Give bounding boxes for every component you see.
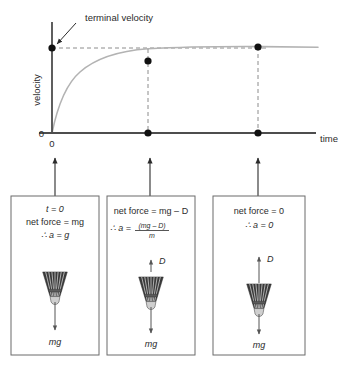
box3-line-acceleration: ∴ a = 0: [245, 220, 274, 230]
velocity-curve: [52, 47, 318, 133]
drag-label-intermediate: D: [159, 256, 166, 266]
marker-initial-terminal-level: [48, 44, 55, 51]
weight-label-intermediate: mg: [145, 339, 158, 349]
axis-marker-terminal: [254, 129, 261, 136]
box3-line-net-force: net force = 0: [234, 206, 284, 216]
velocity-time-graph: terminal velocity velocity time 0 0: [31, 12, 338, 149]
force-diagram-box-initial: t = 0 net force = mg ∴ a = g mg: [11, 196, 99, 355]
weight-label-terminal: mg: [253, 340, 266, 350]
box2-line-acceleration-prefix: ∴ a =: [110, 223, 131, 233]
box2-fraction-numerator: (mg – D): [138, 222, 165, 230]
box2-line-net-force: net force = mg – D: [114, 206, 189, 216]
y-axis-label: velocity: [31, 74, 42, 106]
force-diagram-box-intermediate: net force = mg – D ∴ a = (mg – D) m D mg: [107, 196, 195, 355]
marker-terminal-point: [254, 43, 261, 50]
axis-marker-intermediate: [144, 129, 151, 136]
force-diagram-box-terminal: net force = 0 ∴ a = 0 D mg: [213, 196, 305, 355]
box2-acceleration-fraction: ∴ a = (mg – D) m: [110, 222, 169, 239]
box1-line-net-force: net force = mg: [26, 217, 84, 227]
y-origin-label: 0: [39, 128, 44, 139]
weight-label-initial: mg: [49, 337, 62, 347]
x-origin-label: 0: [49, 138, 54, 149]
drag-label-terminal: D: [267, 254, 274, 264]
box2-fraction-denominator: m: [149, 232, 155, 239]
shuttlecock-icon-terminal: [247, 284, 272, 317]
x-axis-label: time: [320, 133, 338, 144]
shuttlecock-icon-intermediate: [139, 277, 164, 310]
terminal-velocity-annotation-arrow: [57, 23, 76, 44]
box1-line-acceleration: ∴ a = g: [41, 230, 70, 240]
terminal-velocity-figure: terminal velocity velocity time 0 0 t = …: [0, 0, 357, 369]
box-connectors: [55, 158, 258, 196]
marker-intermediate-point: [144, 57, 151, 64]
shuttlecock-icon-initial: [43, 272, 68, 305]
terminal-velocity-label: terminal velocity: [85, 12, 153, 23]
box1-line-time: t = 0: [46, 204, 64, 214]
